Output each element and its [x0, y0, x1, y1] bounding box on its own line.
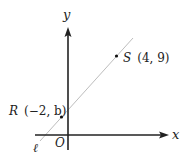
line-label: ℓ — [33, 141, 38, 155]
coordinate-diagram: y x O ℓ R (−2, b) S (4, 9) — [0, 0, 183, 161]
x-axis-label: x — [172, 127, 180, 142]
y-axis-label: y — [62, 7, 71, 22]
point-r-coords: (−2, b) — [24, 104, 66, 118]
point-s-coords: (4, 9) — [137, 51, 169, 65]
point-r-name: R — [8, 104, 18, 118]
origin-label: O — [55, 136, 65, 150]
point-s-name: S — [123, 51, 131, 65]
point-r-label: R (−2, b) — [8, 104, 66, 118]
line-l — [40, 38, 133, 141]
point-s — [115, 54, 118, 57]
point-s-label: S (4, 9) — [123, 51, 170, 65]
